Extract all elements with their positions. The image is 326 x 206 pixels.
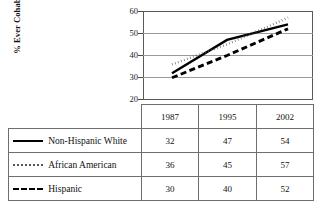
y-axis-tick-40: 40 bbox=[116, 50, 138, 60]
table-row: Non-Hispanic White 32 47 54 bbox=[9, 129, 314, 153]
figure-panel: % Ever Cohabited 60 50 40 30 20 1987 bbox=[0, 0, 326, 206]
line-dashed-icon bbox=[13, 184, 43, 193]
table-cell: 57 bbox=[257, 153, 314, 177]
table-cell: 47 bbox=[199, 129, 257, 153]
table-corner-cell bbox=[9, 105, 142, 129]
legend-row-hispanic: Hispanic bbox=[9, 177, 142, 201]
legend-data-table: 1987 1995 2002 Non-Hispanic White 32 47 … bbox=[8, 104, 314, 201]
table-cell: 36 bbox=[142, 153, 199, 177]
y-axis-tick-20: 20 bbox=[116, 94, 138, 104]
table-row: Hispanic 30 40 52 bbox=[9, 177, 314, 201]
series-line bbox=[172, 29, 288, 78]
plot-area bbox=[143, 11, 313, 100]
legend-row-non-hispanic-white: Non-Hispanic White bbox=[9, 129, 142, 153]
y-axis-tick-60: 60 bbox=[116, 6, 138, 16]
table-col-header-2002: 2002 bbox=[257, 105, 314, 129]
legend-label: Hispanic bbox=[48, 184, 82, 194]
table-cell: 52 bbox=[257, 177, 314, 201]
table-col-header-1995: 1995 bbox=[199, 105, 257, 129]
y-axis-title: % Ever Cohabited bbox=[12, 0, 26, 62]
table-cell: 40 bbox=[199, 177, 257, 201]
line-chart: % Ever Cohabited 60 50 40 30 20 bbox=[0, 0, 326, 104]
table-col-header-1987: 1987 bbox=[142, 105, 199, 129]
legend-label: Non-Hispanic White bbox=[48, 136, 127, 146]
y-axis-tick-30: 30 bbox=[116, 72, 138, 82]
series-lines bbox=[143, 11, 313, 100]
line-dotted-icon bbox=[13, 160, 43, 169]
table-cell: 45 bbox=[199, 153, 257, 177]
series-line bbox=[172, 24, 288, 73]
table-cell: 30 bbox=[142, 177, 199, 201]
y-axis-tick-50: 50 bbox=[116, 28, 138, 38]
legend-row-african-american: African American bbox=[9, 153, 142, 177]
table-row: African American 36 45 57 bbox=[9, 153, 314, 177]
legend-label: African American bbox=[48, 160, 116, 170]
series-line bbox=[172, 18, 288, 65]
table-header-row: 1987 1995 2002 bbox=[9, 105, 314, 129]
table-cell: 54 bbox=[257, 129, 314, 153]
line-solid-icon bbox=[13, 136, 43, 145]
table-cell: 32 bbox=[142, 129, 199, 153]
